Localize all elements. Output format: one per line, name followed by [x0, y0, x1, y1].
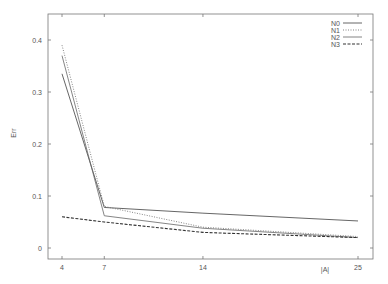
legend: N0N1N2N3 — [331, 20, 362, 48]
y-tick-label: 0.1 — [32, 193, 42, 200]
data-series — [62, 45, 358, 237]
x-tick-label: 14 — [199, 264, 207, 271]
y-tick-label: 0 — [38, 245, 42, 252]
legend-label: N2 — [331, 34, 340, 41]
legend-label: N3 — [331, 41, 340, 48]
y-tick-label: 0.2 — [32, 141, 42, 148]
x-tick-label: 25 — [354, 264, 362, 271]
y-tick-label: 0.3 — [32, 89, 42, 96]
x-tick-label: 4 — [60, 264, 64, 271]
y-tick-label: 0.4 — [32, 37, 42, 44]
line-chart: 00.10.20.30.4 471425 N0N1N2N3 Err |A| — [0, 0, 388, 284]
legend-label: N0 — [331, 20, 340, 27]
legend-label: N1 — [331, 27, 340, 34]
series-line-n2 — [62, 56, 358, 238]
series-line-n3 — [62, 217, 358, 238]
x-axis-label: |A| — [321, 266, 329, 274]
x-tick-label: 7 — [102, 264, 106, 271]
plot-frame — [48, 14, 373, 259]
series-line-n0 — [62, 74, 358, 221]
y-axis-label: Err — [10, 128, 17, 138]
